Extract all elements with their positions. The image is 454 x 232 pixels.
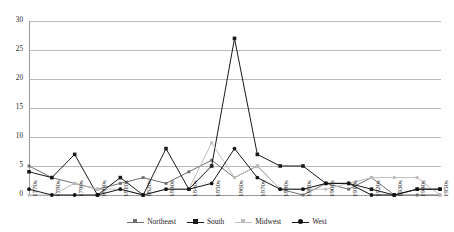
x-tick-label: 1900s [329,180,336,197]
x-tick-label: 1890s [306,180,313,197]
legend-marker-icon [127,218,144,226]
legend-marker-icon [292,218,309,226]
legend-marker-icon [235,218,252,226]
series-layer [29,21,440,195]
legend-label: Northeast [146,218,176,225]
x-tick-label: 1850s [215,180,222,197]
x-tick-label: 1930s [397,180,404,197]
data-point [187,170,190,173]
y-axis: 051015202530 [0,21,26,195]
data-point [28,165,31,168]
y-tick-label: 30 [16,17,23,24]
data-point [165,182,168,185]
data-point [96,188,99,191]
x-tick-label: 1800s [101,180,108,197]
chart-legend: NortheastSouthMidwestWest [0,214,454,230]
data-point [256,165,259,168]
data-point [233,176,236,179]
y-tick-label: 20 [16,75,23,82]
x-tick-label: 1780s [55,180,62,197]
legend-label: West [311,218,327,225]
y-tick-label: 25 [16,46,23,53]
data-point [233,37,237,41]
y-tick-label: 5 [19,162,23,169]
series-south [27,37,442,197]
x-tick-label: 1790s [78,180,85,197]
data-point [256,153,260,157]
y-tick-label: 10 [16,133,23,140]
data-point [255,176,259,180]
x-tick-label: 1770s [32,180,39,197]
line-chart: 051015202530 1770s1780s1790s1800s1810s18… [0,0,454,232]
data-point [393,176,396,179]
data-point [370,176,373,179]
data-point [370,187,374,191]
legend-item-northeast[interactable]: Northeast [127,218,176,226]
data-point [164,147,168,151]
legend-label: South [206,218,224,225]
series-line [29,38,440,195]
y-tick-label: 15 [16,104,23,111]
data-point [210,182,214,186]
x-tick-label: 1820s [146,180,153,197]
legend-label: Midwest [254,218,281,225]
legend-item-south[interactable]: South [187,218,224,226]
x-tick-label: 1810s [123,180,130,197]
data-point [324,188,327,191]
data-point [416,176,419,179]
data-point [233,147,237,151]
x-tick-label: 1950s [443,180,450,197]
legend-item-west[interactable]: West [292,218,327,226]
data-point [142,176,145,179]
x-tick-label: 1840s [192,180,199,197]
data-point [73,153,77,157]
x-tick-label: 1910s [352,180,359,197]
data-point [210,141,213,144]
data-point [347,182,351,186]
data-point [119,176,123,180]
data-point [347,188,350,191]
x-tick-label: 1870s [260,180,267,197]
data-point [27,170,31,174]
x-tick-label: 1880s [283,180,290,197]
x-tick-label: 1860s [238,180,245,197]
legend-item-midwest[interactable]: Midwest [235,218,281,226]
legend-marker-icon [187,218,204,226]
data-point [301,164,305,168]
x-tick-label: 1940s [420,180,427,197]
data-point [73,182,76,185]
y-tick-label: 0 [19,191,23,198]
x-tick-label: 1920s [375,180,382,197]
data-point [50,176,54,180]
data-point [278,164,282,168]
x-tick-label: 1830s [169,180,176,197]
data-point [210,164,214,168]
